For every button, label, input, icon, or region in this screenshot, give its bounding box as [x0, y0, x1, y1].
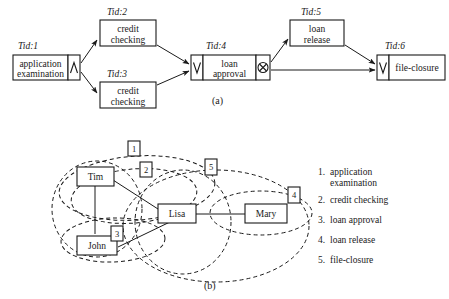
legend-item-2: 2. credit checking [318, 195, 389, 205]
actor-john-label: John [88, 241, 106, 251]
actor-tim-label: Tim [88, 172, 104, 182]
legend-item-1-num: 1. [318, 167, 325, 177]
group-marker-1[interactable]: 1 [128, 141, 140, 156]
figure-root: Tid:1 application examination Tid:2 cred… [0, 0, 449, 299]
arc-5-to-6 [345, 45, 375, 64]
group-marker-5[interactable]: 5 [205, 159, 217, 175]
legend-item-3: 3. loan approval [318, 215, 382, 225]
task-3-name-line2: checking [111, 97, 146, 107]
legend-item-1-text-line2: examination [330, 178, 377, 188]
legend-item-2-text-line1: credit checking [330, 195, 389, 205]
task-node-2[interactable]: Tid:2 credit checking [100, 7, 156, 46]
legend-item-4: 4. loan release [318, 235, 375, 245]
task-node-1[interactable]: Tid:1 application examination [13, 41, 80, 80]
legend-item-3-text-line1: loan approval [330, 215, 382, 225]
arc-1-to-3 [81, 72, 97, 93]
legend-item-4-num: 4. [318, 235, 325, 245]
legend-item-1: 1. application examination [318, 167, 377, 188]
task-6-join-cell [377, 55, 389, 80]
social-network-panel: Tim Lisa John Mary 1 2 [52, 141, 312, 292]
actor-node-lisa[interactable]: Lisa [158, 204, 196, 223]
arc-3-to-4 [157, 71, 189, 85]
task-1-name-line1: application [19, 59, 61, 69]
task-3-tid-label: Tid:3 [107, 69, 127, 79]
task-5-name-line2: release [304, 35, 330, 45]
caption-a: (a) [212, 95, 223, 107]
edge-john-lisa [118, 221, 172, 247]
task-node-4[interactable]: Tid:4 loan approval [191, 41, 270, 80]
arc-1-to-2 [81, 40, 97, 63]
group-marker-3[interactable]: 3 [111, 226, 123, 241]
task-1-tid-label: Tid:1 [18, 41, 38, 51]
figure-svg: Tid:1 application examination Tid:2 cred… [0, 0, 449, 299]
actor-node-tim[interactable]: Tim [77, 167, 114, 186]
edge-tim-lisa [113, 180, 158, 209]
task-node-3[interactable]: Tid:3 credit checking [100, 69, 156, 108]
legend: 1. application examination 2. credit che… [318, 167, 389, 265]
group-marker-3-label: 3 [115, 229, 119, 239]
actor-node-mary[interactable]: Mary [245, 204, 287, 223]
group-ellipse-5 [123, 170, 309, 282]
legend-item-1-text-line1: application [330, 167, 372, 177]
legend-item-5-num: 5. [318, 255, 325, 265]
task-5-name-line1: loan [309, 24, 326, 34]
legend-item-3-num: 3. [318, 215, 325, 225]
task-6-name-line1: file-closure [395, 63, 438, 73]
arc-2-to-4 [157, 45, 189, 64]
arc-4-to-5 [271, 39, 288, 62]
task-4-join-cell [191, 55, 203, 80]
task-node-5[interactable]: Tid:5 loan release [290, 7, 344, 46]
task-6-tid-label: Tid:6 [385, 41, 405, 51]
task-node-6[interactable]: Tid:6 file-closure [377, 41, 445, 80]
process-model-panel: Tid:1 application examination Tid:2 cred… [13, 7, 445, 108]
actor-mary-label: Mary [256, 209, 277, 219]
task-1-split-cell [68, 55, 80, 80]
group-marker-5-label: 5 [209, 162, 213, 172]
group-marker-2[interactable]: 2 [140, 162, 152, 177]
task-3-name-line1: credit [117, 86, 139, 96]
task-5-tid-label: Tid:5 [301, 7, 321, 17]
task-4-tid-label: Tid:4 [206, 41, 226, 51]
task-4-name-line1: loan [221, 59, 238, 69]
task-2-name-line1: credit [117, 24, 139, 34]
legend-item-2-num: 2. [318, 195, 325, 205]
task-2-tid-label: Tid:2 [107, 7, 127, 17]
caption-b: (b) [204, 280, 216, 292]
group-marker-4[interactable]: 4 [288, 187, 300, 203]
task-4-name-line2: approval [213, 69, 247, 79]
legend-item-4-text-line1: loan release [330, 235, 375, 245]
actor-lisa-label: Lisa [169, 209, 186, 219]
task-1-name-line2: examination [17, 69, 64, 79]
group-marker-1-label: 1 [132, 144, 136, 154]
legend-item-5: 5. file-closure [318, 255, 373, 265]
group-marker-2-label: 2 [144, 165, 148, 175]
legend-item-5-text-line1: file-closure [330, 255, 373, 265]
task-2-name-line2: checking [111, 35, 146, 45]
